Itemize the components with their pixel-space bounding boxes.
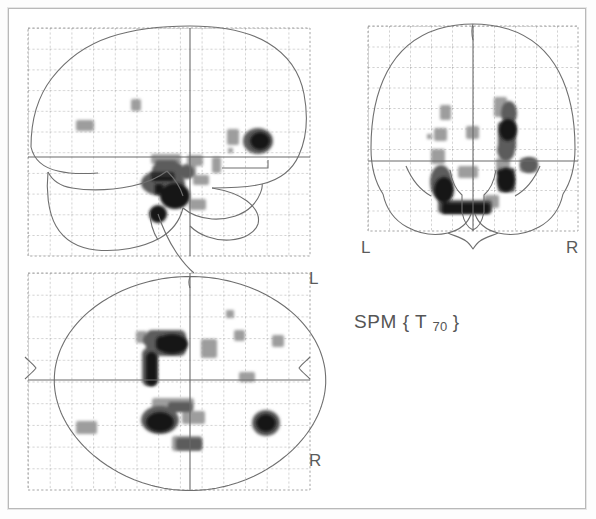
spm-figure-root: L R: [0, 0, 596, 519]
sagittal-mip-svg: [0, 0, 330, 275]
axial-left-label: L: [309, 270, 319, 287]
coronal-right-label: R: [566, 239, 579, 256]
spm-label-df: 70: [433, 319, 448, 334]
axial-grid: [28, 273, 310, 490]
axial-right-label: R: [309, 452, 322, 469]
spm-statistic-label: SPM { T 70 }: [354, 311, 460, 334]
spm-label-suffix: }: [453, 311, 460, 332]
spm-label-stat: T: [415, 311, 427, 332]
coronal-left-label: L: [361, 239, 371, 256]
coronal-mip-svg: [340, 0, 596, 258]
coronal-view-panel: [340, 0, 596, 258]
axial-view-panel: [0, 262, 330, 502]
axial-mip-svg: [0, 262, 330, 502]
spm-label-prefix: SPM {: [354, 311, 410, 332]
sagittal-view-panel: [0, 0, 330, 270]
